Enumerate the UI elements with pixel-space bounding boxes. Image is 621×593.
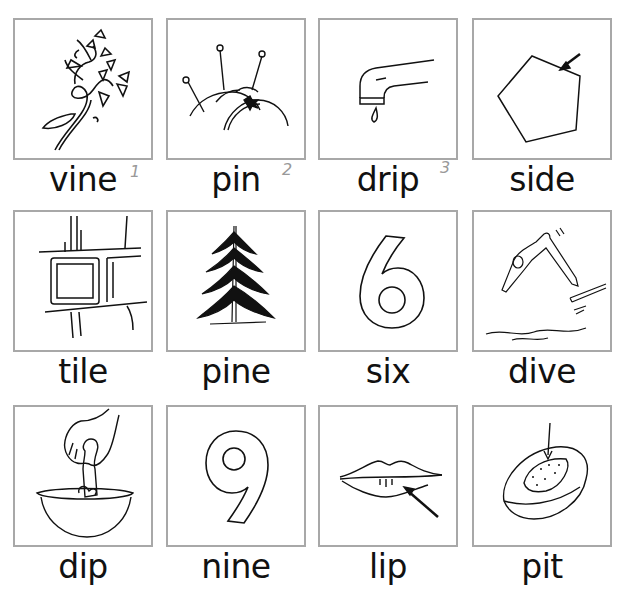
vine-icon bbox=[15, 20, 151, 158]
pine-tree-icon bbox=[168, 212, 304, 350]
diver-icon bbox=[474, 212, 610, 350]
word-label: dive bbox=[472, 352, 612, 392]
dripping-faucet-icon bbox=[320, 20, 456, 158]
pincushion-icon bbox=[168, 20, 304, 158]
picture-frame bbox=[472, 210, 612, 352]
picture-frame bbox=[318, 405, 458, 547]
word-label: drip bbox=[318, 160, 458, 200]
picture-frame bbox=[13, 18, 153, 160]
picture-frame bbox=[166, 405, 306, 547]
word-label: dip bbox=[13, 547, 153, 587]
handwritten-number: 3 bbox=[440, 158, 450, 177]
word-label: nine bbox=[166, 547, 306, 587]
word-label: tile bbox=[13, 352, 153, 392]
hand-dipping-bowl-icon bbox=[15, 407, 151, 545]
word-label: side bbox=[472, 160, 612, 200]
picture-frame bbox=[318, 18, 458, 160]
word-label: lip bbox=[318, 547, 458, 587]
picture-frame bbox=[166, 210, 306, 352]
picture-frame bbox=[472, 18, 612, 160]
handwritten-number: 2 bbox=[282, 160, 292, 179]
number-nine-icon bbox=[168, 407, 304, 545]
picture-frame bbox=[13, 405, 153, 547]
pentagon-side-arrow-icon bbox=[474, 20, 610, 158]
word-label: pit bbox=[472, 547, 612, 587]
word-label: six bbox=[318, 352, 458, 392]
picture-frame bbox=[166, 18, 306, 160]
tile-wall-icon bbox=[15, 212, 151, 350]
handwritten-number: 1 bbox=[130, 162, 140, 181]
word-label: pine bbox=[166, 352, 306, 392]
picture-frame bbox=[13, 210, 153, 352]
number-six-icon bbox=[320, 212, 456, 350]
picture-frame bbox=[318, 210, 458, 352]
picture-frame bbox=[472, 405, 612, 547]
lips-arrow-icon bbox=[320, 407, 456, 545]
fruit-pit-icon bbox=[474, 407, 610, 545]
